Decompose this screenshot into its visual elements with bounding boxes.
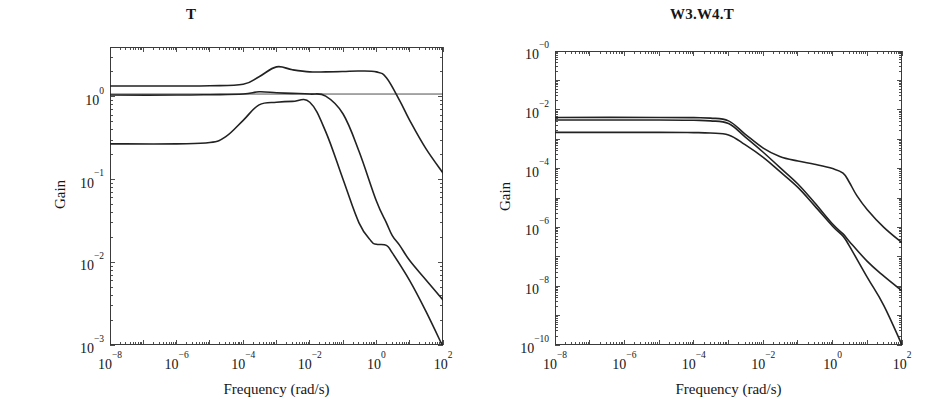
series-curve-lower bbox=[110, 99, 443, 346]
xtick-left-0: 10−8 bbox=[84, 353, 136, 372]
ytick-right-2: 10−4 bbox=[495, 161, 549, 180]
xtick-left-5: 102 bbox=[417, 353, 469, 372]
panel-right: W3.W4.T Gain Frequency (rad/s) 10−810−61… bbox=[472, 0, 944, 419]
xtick-left-2: 10−4 bbox=[217, 353, 269, 372]
panel-right-xlabel: Frequency (rad/s) bbox=[515, 381, 942, 398]
series-curve-middle bbox=[110, 92, 443, 300]
xtick-left-3: 10−2 bbox=[284, 353, 336, 372]
figure-root: T Gain Frequency (rad/s) 10−810−610−410−… bbox=[0, 0, 945, 419]
axis-ticks bbox=[110, 47, 443, 345]
series-curve-upper bbox=[110, 67, 443, 173]
axis-ticks bbox=[555, 51, 902, 345]
ytick-right-1: 10−2 bbox=[495, 102, 549, 121]
panel-left-xlabel: Frequency (rad/s) bbox=[70, 381, 483, 398]
xtick-right-2: 10−4 bbox=[668, 353, 720, 372]
xtick-right-3: 10−2 bbox=[737, 353, 789, 372]
ytick-left-2: 10−2 bbox=[50, 254, 104, 273]
xtick-right-4: 100 bbox=[807, 353, 859, 372]
ytick-right-3: 10−6 bbox=[495, 219, 549, 238]
panel-left: T Gain Frequency (rad/s) 10−810−610−410−… bbox=[0, 0, 472, 419]
series-curve-shelf bbox=[555, 117, 902, 242]
xtick-left-4: 100 bbox=[350, 353, 402, 372]
ytick-right-4: 10−8 bbox=[495, 278, 549, 297]
xtick-right-0: 10−8 bbox=[529, 353, 581, 372]
ytick-left-1: 10−1 bbox=[50, 172, 104, 191]
xtick-right-1: 10−6 bbox=[598, 353, 650, 372]
series-curve-steep bbox=[555, 132, 902, 345]
panel-left-ylabel: Gain bbox=[52, 145, 69, 245]
ytick-left-0: 100 bbox=[50, 89, 104, 108]
ytick-right-0: 10−0 bbox=[495, 43, 549, 62]
xtick-right-5: 102 bbox=[876, 353, 928, 372]
ytick-right-5: 10−10 bbox=[495, 337, 549, 356]
series-curve-mid bbox=[555, 120, 902, 291]
xtick-left-1: 10−6 bbox=[151, 353, 203, 372]
ytick-left-3: 10−3 bbox=[50, 337, 104, 356]
